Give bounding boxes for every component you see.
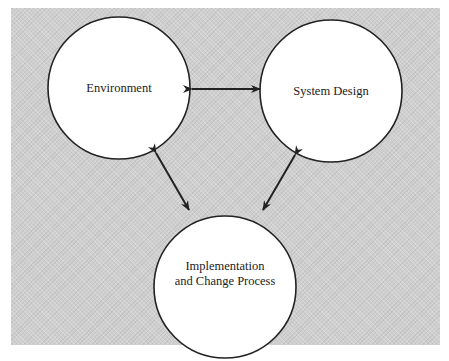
arrow-environment-implementation xyxy=(156,153,189,210)
label-implementation-line2: and Change Process xyxy=(160,274,290,289)
label-system-design: System Design xyxy=(271,84,391,99)
label-environment: Environment xyxy=(59,81,179,96)
diagram-canvas xyxy=(0,0,449,361)
label-implementation-line1: Implementation xyxy=(160,259,290,274)
arrow-system-design-implementation xyxy=(263,155,295,210)
label-implementation: Implementation and Change Process xyxy=(160,259,290,289)
